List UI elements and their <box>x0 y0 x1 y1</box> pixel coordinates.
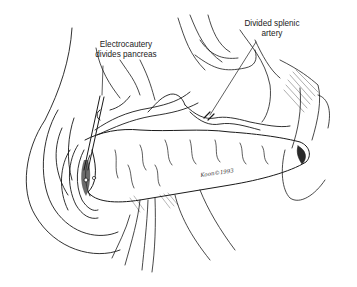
electrocautery-label: Electrocautery divides pancreas <box>86 40 166 60</box>
electrocautery-label-line2: divides pancreas <box>86 50 166 60</box>
hatching-spleen <box>284 70 318 112</box>
splenic-artery-label: Divided splenic artery <box>240 19 304 39</box>
pancreas-tail-shading <box>297 146 305 164</box>
left-bowel-loop <box>26 28 120 254</box>
electrocautery-leader <box>102 66 103 95</box>
electrocautery-label-line1: Electrocautery <box>86 40 166 50</box>
pancreas-illustration <box>0 0 357 287</box>
pancreas-lobulation <box>115 140 268 188</box>
splenic-artery-leader <box>210 42 256 115</box>
mesenteric-vessels <box>112 190 235 272</box>
illustration-canvas: Electrocautery divides pancreas Divided … <box>0 0 357 287</box>
hatching-lower <box>130 193 178 212</box>
spleen-region <box>280 60 330 200</box>
pancreas-body <box>85 129 309 201</box>
splenic-artery-label-line2: artery <box>240 29 304 39</box>
cut-surface <box>61 145 98 218</box>
splenic-vessels <box>95 92 290 135</box>
vessel-cross-section <box>92 176 95 179</box>
pancreatic-duct <box>84 178 88 182</box>
splenic-artery-label-line1: Divided splenic <box>240 19 304 29</box>
